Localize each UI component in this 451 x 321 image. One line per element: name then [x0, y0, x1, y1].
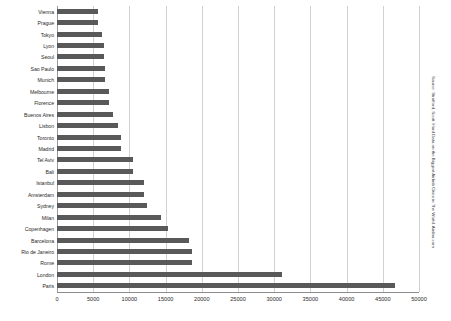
x-tick-label: 0	[55, 295, 58, 303]
bar-row	[57, 89, 419, 94]
bar-row	[57, 32, 419, 37]
bar-row	[57, 146, 419, 151]
category-label: Sao Paulo	[0, 66, 54, 72]
category-label: Lyon	[0, 43, 54, 49]
x-tick-label: 10000	[122, 295, 138, 303]
plot-area	[57, 6, 419, 292]
bar	[57, 77, 105, 82]
x-tick-label: 15000	[158, 295, 174, 303]
bar-row	[57, 20, 419, 25]
bar-row	[57, 272, 419, 277]
bar	[57, 215, 161, 220]
x-tick-label: 5000	[87, 295, 99, 303]
source-note: Source: Stratford, Scott. Hard Data on t…	[428, 76, 438, 256]
category-label: Rome	[0, 260, 54, 266]
bar	[57, 135, 121, 140]
bar-row	[57, 100, 419, 105]
bar-row	[57, 9, 419, 14]
category-label: Prague	[0, 20, 54, 26]
x-tick-label: 30000	[266, 295, 282, 303]
category-label: Amsterdam	[0, 192, 54, 198]
bar-chart: ViennaPragueTokyoLyonSeoulSao PauloMunic…	[0, 0, 451, 321]
bar-row	[57, 192, 419, 197]
category-label: Barcelona	[0, 238, 54, 244]
category-label: Copenhagen	[0, 226, 54, 232]
bar-row	[57, 43, 419, 48]
bar-row	[57, 169, 419, 174]
bar-row	[57, 238, 419, 243]
bar-row	[57, 260, 419, 265]
bar-row	[57, 66, 419, 71]
category-label: Paris	[0, 283, 54, 289]
bar	[57, 260, 192, 265]
bar	[57, 146, 121, 151]
bar-series	[57, 6, 419, 292]
category-label: Buenos Aires	[0, 112, 54, 118]
x-tick-label: 45000	[375, 295, 391, 303]
bar	[57, 238, 189, 243]
bar	[57, 20, 98, 25]
bar	[57, 226, 168, 231]
category-label: Sydney	[0, 203, 54, 209]
bar-row	[57, 135, 419, 140]
bar	[57, 100, 109, 105]
bar-row	[57, 226, 419, 231]
x-tick-label: 35000	[303, 295, 319, 303]
bar	[57, 180, 144, 185]
category-label: Rio de Janeiro	[0, 249, 54, 255]
x-tick-label: 20000	[194, 295, 210, 303]
bar	[57, 157, 133, 162]
bar-row	[57, 157, 419, 162]
bar	[57, 283, 395, 288]
bar	[57, 249, 192, 254]
x-tick-label: 40000	[339, 295, 355, 303]
category-label: Tokyo	[0, 32, 54, 38]
bar	[57, 9, 98, 14]
bar	[57, 123, 118, 128]
bar	[57, 192, 144, 197]
bar-row	[57, 215, 419, 220]
bar	[57, 54, 104, 59]
gridline	[419, 6, 420, 292]
bar	[57, 272, 282, 277]
category-label: Vienna	[0, 9, 54, 15]
category-label: Munich	[0, 77, 54, 83]
x-axis-tick-labels: 0500010000150002000025000300003500040000…	[57, 295, 419, 309]
category-label: Seoul	[0, 54, 54, 60]
bar-row	[57, 249, 419, 254]
bar-row	[57, 180, 419, 185]
bar-row	[57, 112, 419, 117]
bar	[57, 32, 102, 37]
bar	[57, 66, 105, 71]
bar-row	[57, 77, 419, 82]
category-label: Milan	[0, 215, 54, 221]
x-axis-line	[57, 292, 419, 293]
bar-row	[57, 54, 419, 59]
bar	[57, 43, 104, 48]
category-label: Florence	[0, 100, 54, 106]
bar	[57, 89, 109, 94]
category-label: Toronto	[0, 135, 54, 141]
y-axis-category-labels: ViennaPragueTokyoLyonSeoulSao PauloMunic…	[0, 6, 54, 292]
category-label: Melbourne	[0, 89, 54, 95]
category-label: Lisbon	[0, 123, 54, 129]
bar-row	[57, 283, 419, 288]
category-label: Istanbul	[0, 180, 54, 186]
category-label: Tel Aviv	[0, 157, 54, 163]
bar-row	[57, 123, 419, 128]
bar-row	[57, 203, 419, 208]
x-tick-label: 50000	[411, 295, 427, 303]
category-label: Madrid	[0, 146, 54, 152]
bar	[57, 112, 113, 117]
x-tick-label: 25000	[230, 295, 246, 303]
bar	[57, 169, 133, 174]
category-label: Bali	[0, 169, 54, 175]
bar	[57, 203, 147, 208]
category-label: London	[0, 272, 54, 278]
